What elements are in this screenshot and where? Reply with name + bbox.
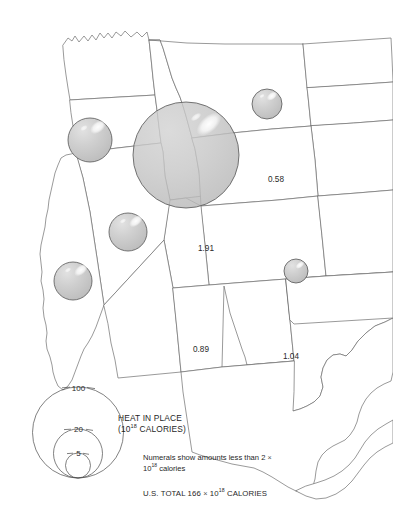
state-nebraska (311, 120, 393, 196)
legend-total-prefix: U.S. TOTAL 166 (143, 489, 203, 498)
map-canvas: 0.58 1.91 0.89 1.04 100 20 5 (0, 0, 393, 520)
value-label-104: 1.04 (283, 352, 299, 361)
idaho-wyoming-bubble (133, 102, 239, 208)
legend-title-line2: (1018 CALORIES) (118, 424, 186, 435)
state-south-dakota (307, 82, 393, 126)
state-washington (63, 31, 155, 100)
legend-title-line1: HEAT IN PLACE (118, 413, 186, 424)
legend-title-prefix: (10 (118, 424, 131, 434)
value-label-089: 0.89 (193, 345, 209, 354)
legend-note: Numerals show amounts less than 2 × 1018… (143, 452, 272, 474)
legend-note-line1: Numerals show amounts less than 2 × (143, 452, 272, 463)
legend-title: HEAT IN PLACE (1018 CALORIES) (118, 413, 186, 435)
legend-label-100: 100 (72, 384, 86, 393)
heat-in-place-map-figure: 0.58 1.91 0.89 1.04 100 20 5 HEAT IN PLA… (0, 0, 393, 520)
state-outlines-group (40, 31, 393, 499)
value-label-058: 0.58 (268, 175, 284, 184)
nevada-bubble (109, 212, 147, 251)
value-label-191: 1.91 (198, 244, 214, 253)
state-north-dakota (303, 38, 393, 88)
legend-title-suffix: CALORIES) (137, 424, 186, 434)
washington-bubble (68, 117, 112, 162)
new-mexico-bubble (284, 259, 308, 283)
legend-note-prefix: Numerals show amounts less than 2 (143, 453, 268, 462)
legend-total-mantissa: 10 (208, 489, 219, 498)
legend-scale-circles: 100 20 5 (33, 384, 124, 479)
legend-label-20: 20 (74, 425, 83, 434)
california-bubble (54, 261, 92, 300)
legend-tick-20-right (86, 429, 93, 430)
montana-dakota-bubble (252, 89, 282, 119)
legend-note-times: × (268, 453, 272, 462)
legend-note-line2: 1018 calories (143, 463, 272, 474)
state-kansas (318, 190, 393, 276)
legend-total-suffix: CALORIES (225, 489, 268, 498)
legend-label-5: 5 (76, 449, 81, 458)
legend-total: U.S. TOTAL 166 × 1018 CALORIES (143, 489, 267, 499)
legend-note-suffix: calories (157, 464, 185, 473)
